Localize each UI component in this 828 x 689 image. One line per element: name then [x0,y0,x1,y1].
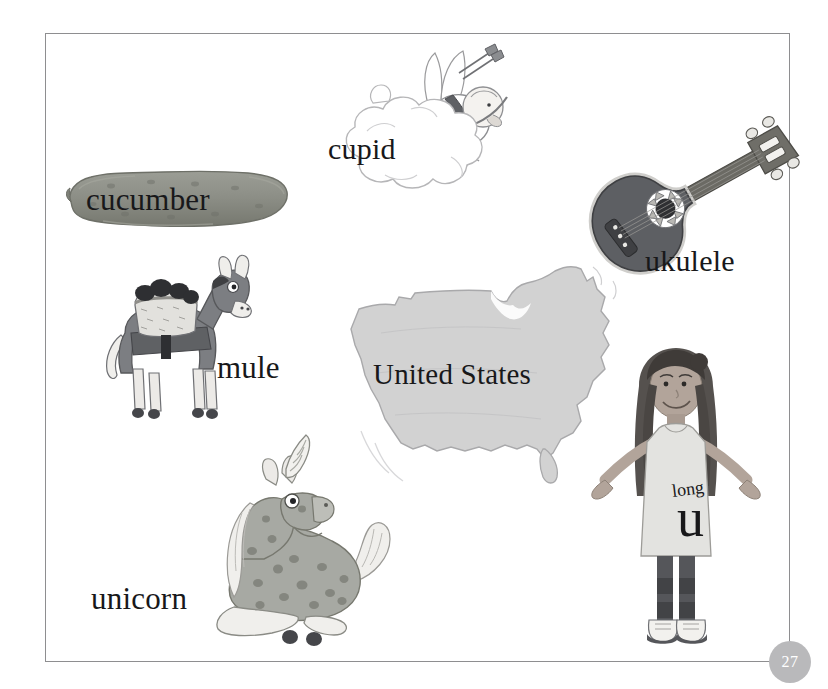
cupid-on-cloud-illustration [301,39,546,219]
cupid-label: cupid [328,132,396,166]
mule-label: mule [217,350,280,386]
ukulele-label: ukulele [645,244,735,278]
cucumber-label: cucumber [86,182,210,218]
girl-illustration: long u [581,346,766,651]
unicorn-label: unicorn [91,581,187,617]
workbook-page: cucumber [0,0,828,689]
unicorn-illustration [194,433,409,658]
page-number-badge: 27 [769,641,811,683]
page-frame: cucumber [45,33,790,662]
united-states-label: United States [373,358,531,391]
girl-shirt-large-text: u [677,491,704,545]
